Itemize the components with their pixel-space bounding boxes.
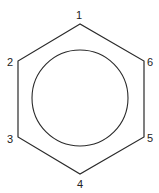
hexagon-ring [18,24,144,174]
vertex-label-5: 5 [147,132,153,144]
vertex-label-1: 1 [76,9,82,21]
benzene-diagram: 1 2 3 4 5 6 [0,0,159,193]
vertex-label-4: 4 [77,178,83,190]
aromatic-circle [32,50,128,146]
vertex-label-2: 2 [7,56,13,68]
vertex-label-3: 3 [7,133,13,145]
vertex-label-6: 6 [147,56,153,68]
